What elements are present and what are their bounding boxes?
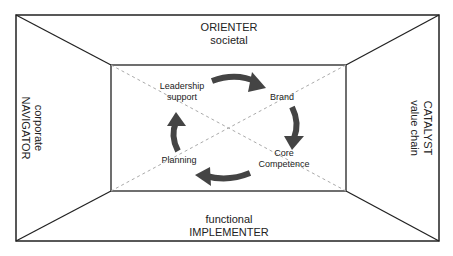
label-right-line2: value chain	[408, 88, 421, 168]
label-bottom-line1: functional	[189, 213, 269, 226]
node-core-line1: Core	[253, 148, 315, 159]
connector-bottom-left	[16, 191, 111, 241]
label-left-line1: corporate	[32, 88, 45, 168]
arrow-brand-to-core	[292, 107, 297, 138]
arrow-core-to-planning	[206, 173, 250, 178]
node-planning: Planning	[154, 155, 204, 166]
connector-top-right	[346, 15, 439, 65]
connector-top-left	[16, 15, 111, 65]
label-right: CATALYST value chain	[408, 88, 434, 168]
connector-bottom-right	[346, 191, 439, 241]
label-left-line2: NAVIGATOR	[19, 88, 32, 168]
label-top-line1: ORIENTER	[199, 21, 259, 34]
arrowhead-brand-icon	[248, 72, 266, 92]
label-top-line2: societal	[199, 34, 259, 47]
node-brand-line1: Brand	[262, 92, 302, 103]
arrowhead-leadership-icon	[167, 112, 186, 126]
node-leadership-line1: Leadership	[154, 81, 210, 92]
arrow-planning-to-leadership	[173, 122, 178, 151]
node-leadership-line2: support	[154, 92, 210, 103]
node-core-competence: Core Competence	[253, 148, 315, 170]
node-brand: Brand	[262, 92, 302, 103]
arrowhead-planning-icon	[195, 167, 211, 186]
label-right-line1: CATALYST	[421, 88, 434, 168]
label-top: ORIENTER societal	[199, 21, 259, 47]
node-leadership-support: Leadership support	[154, 81, 210, 103]
node-planning-line1: Planning	[154, 155, 204, 166]
label-left: corporate NAVIGATOR	[19, 88, 45, 168]
node-core-line2: Competence	[253, 159, 315, 170]
label-bottom-line2: IMPLEMENTER	[189, 226, 269, 239]
label-bottom: functional IMPLEMENTER	[189, 213, 269, 239]
